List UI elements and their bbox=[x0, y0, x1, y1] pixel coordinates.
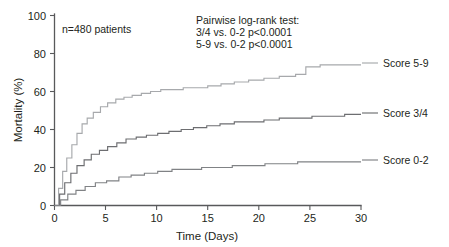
series-label-group-mid: Score 3/4 bbox=[362, 107, 428, 119]
y-tick-label-80: 80 bbox=[34, 48, 46, 60]
log-rank-line-5-9: 5-9 vs. 0-2 p<0.0001 bbox=[196, 38, 293, 50]
y-tick-label-60: 60 bbox=[34, 86, 46, 98]
series-label-score-3-4: Score 3/4 bbox=[383, 107, 428, 119]
y-tick-label-20: 20 bbox=[34, 162, 46, 174]
curve-score-3-4 bbox=[55, 114, 362, 205]
series-label-group-top: Score 5-9 bbox=[362, 57, 429, 69]
x-tick-label-30: 30 bbox=[355, 212, 367, 224]
log-rank-annotation: Pairwise log-rank test: 3/4 vs. 0-2 p<0.… bbox=[196, 14, 299, 50]
y-tick-label-100: 100 bbox=[28, 10, 46, 22]
x-tick-label-0: 0 bbox=[51, 212, 57, 224]
series-label-score-5-9: Score 5-9 bbox=[383, 57, 429, 69]
x-tick-label-20: 20 bbox=[253, 212, 265, 224]
kaplan-meier-mortality-chart: 100 80 60 40 20 0 0 5 10 15 20 25 30 Mor… bbox=[0, 0, 449, 247]
y-axis-title: Mortality (%) bbox=[12, 78, 24, 143]
log-rank-title: Pairwise log-rank test: bbox=[196, 14, 299, 26]
x-axis-ticks: 0 5 10 15 20 25 30 bbox=[51, 206, 367, 225]
x-axis-title: Time (Days) bbox=[176, 230, 238, 242]
series-label-group-bot: Score 0-2 bbox=[362, 154, 429, 166]
x-tick-label-10: 10 bbox=[150, 212, 162, 224]
chart-canvas: 100 80 60 40 20 0 0 5 10 15 20 25 30 Mor… bbox=[0, 0, 449, 247]
x-tick-label-5: 5 bbox=[102, 212, 108, 224]
y-axis-ticks: 100 80 60 40 20 0 bbox=[28, 10, 55, 212]
log-rank-line-3-4: 3/4 vs. 0-2 p<0.0001 bbox=[196, 26, 292, 38]
sample-size-note: n=480 patients bbox=[62, 23, 131, 35]
x-tick-label-25: 25 bbox=[304, 212, 316, 224]
curve-score-0-2 bbox=[55, 162, 362, 206]
series-label-score-0-2: Score 0-2 bbox=[383, 154, 429, 166]
y-tick-label-40: 40 bbox=[34, 124, 46, 136]
y-tick-label-0: 0 bbox=[40, 200, 46, 212]
curve-score-5-9 bbox=[55, 65, 362, 206]
x-tick-label-15: 15 bbox=[202, 212, 214, 224]
